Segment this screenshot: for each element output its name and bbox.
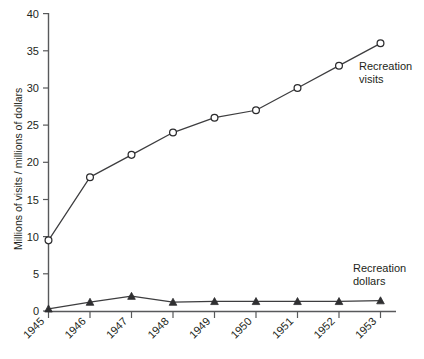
chart-container: Millions of visits / millions of dollars… [0, 0, 424, 359]
data-point [128, 292, 136, 299]
annotation-recreation-visits: Recreation visits [359, 60, 412, 85]
data-point [253, 107, 260, 114]
annotation-line: dollars [353, 275, 386, 287]
x-tick-label: 1945 [21, 315, 47, 341]
annotation-recreation-dollars: Recreation dollars [353, 262, 406, 287]
data-point [128, 151, 135, 158]
data-point [377, 40, 384, 47]
y-tick-label: 35 [27, 45, 39, 57]
x-axis-tick-labels: 1945 1946 1947 1948 1949 1950 1951 1952 … [21, 315, 379, 341]
data-point [87, 174, 94, 181]
data-point [170, 129, 177, 136]
series-recreation-dollars [45, 292, 385, 312]
series-recreation-visits [45, 40, 384, 244]
series-layer [45, 40, 385, 312]
x-axis-ticks [49, 312, 381, 319]
y-axis-title: Millions of visits / millions of dollars [12, 88, 24, 250]
y-axis-tick-labels: 40 35 30 25 20 15 10 5 0 [27, 8, 39, 317]
x-tick-label: 1946 [62, 315, 88, 341]
y-tick-label: 15 [27, 194, 39, 206]
x-tick-label: 1947 [104, 315, 130, 341]
x-tick-label: 1949 [187, 315, 213, 341]
x-tick-label: 1951 [270, 315, 296, 341]
y-tick-label: 10 [27, 231, 39, 243]
x-tick-label: 1948 [145, 315, 171, 341]
line-chart: Millions of visits / millions of dollars… [0, 0, 424, 359]
y-tick-label: 40 [27, 8, 39, 20]
series-line [49, 43, 381, 240]
data-point [45, 237, 52, 244]
y-tick-label: 20 [27, 156, 39, 168]
x-tick-label: 1950 [228, 315, 254, 341]
data-point [294, 85, 301, 92]
annotation-line: Recreation [359, 60, 412, 72]
annotation-line: visits [359, 73, 384, 85]
y-tick-label: 5 [33, 268, 39, 280]
y-tick-label: 25 [27, 119, 39, 131]
data-point [211, 114, 218, 121]
x-tick-label: 1953 [353, 315, 379, 341]
y-tick-label: 30 [27, 82, 39, 94]
x-tick-label: 1952 [311, 315, 337, 341]
y-axis-ticks [43, 14, 49, 311]
data-point [336, 62, 343, 69]
annotation-line: Recreation [353, 262, 406, 274]
